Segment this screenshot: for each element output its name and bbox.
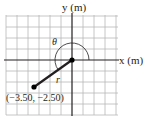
- point-dot: [31, 84, 36, 89]
- polar-coordinates-diagram: y (m) x (m) θ r (−3.50, −2.50): [0, 0, 147, 117]
- x-axis-label: x (m): [119, 55, 143, 66]
- y-axis-label: y (m): [62, 2, 86, 13]
- position-vector: [34, 60, 72, 87]
- point-coordinates-label: (−3.50, −2.50): [6, 93, 64, 103]
- angle-theta-label: θ: [52, 37, 57, 47]
- vector-r-label: r: [56, 75, 60, 85]
- origin-dot: [69, 57, 74, 62]
